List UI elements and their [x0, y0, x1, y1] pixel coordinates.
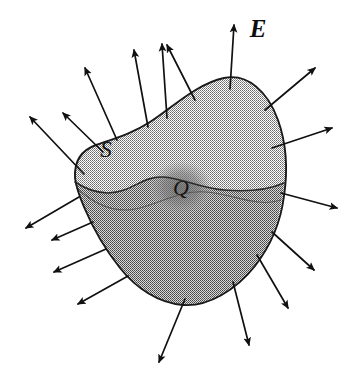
- arrow-up-right-mid: [167, 45, 195, 100]
- arrow-up-left-far: [63, 113, 103, 152]
- arrow-up-right: [265, 68, 315, 110]
- arrow-right-lower: [281, 193, 337, 208]
- gauss-law-figure: E S Q: [0, 0, 355, 380]
- arrow-down-right-2: [257, 255, 288, 308]
- arrow-down-left-1: [78, 276, 128, 304]
- arrow-down-right-3: [233, 282, 249, 345]
- arrow-up-left-mid: [134, 50, 148, 127]
- surface-label-s: S: [100, 137, 112, 162]
- arrow-left-lower: [26, 197, 79, 228]
- arrow-down-left-2: [54, 249, 106, 272]
- field-label-e: E: [249, 15, 267, 42]
- gauss-law-diagram-svg: E S Q: [0, 0, 355, 380]
- arrow-down-left-3: [52, 222, 93, 240]
- arrow-up-left-outer: [85, 68, 117, 140]
- arrow-down: [159, 299, 185, 362]
- arrow-down-right-1: [272, 232, 314, 270]
- arrow-up-mid: [162, 44, 167, 118]
- charge-label-q: Q: [173, 175, 189, 200]
